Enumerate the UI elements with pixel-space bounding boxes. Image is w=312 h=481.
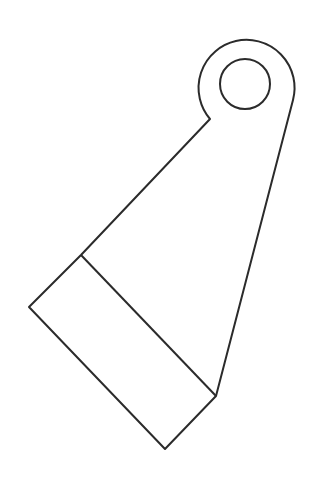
tapered-body-outline [29, 40, 295, 449]
mounting-hole-circle [220, 59, 270, 109]
diagram-canvas [0, 0, 312, 481]
base-band-divider-line [81, 255, 216, 396]
pendant-shape-drawing [0, 0, 312, 481]
